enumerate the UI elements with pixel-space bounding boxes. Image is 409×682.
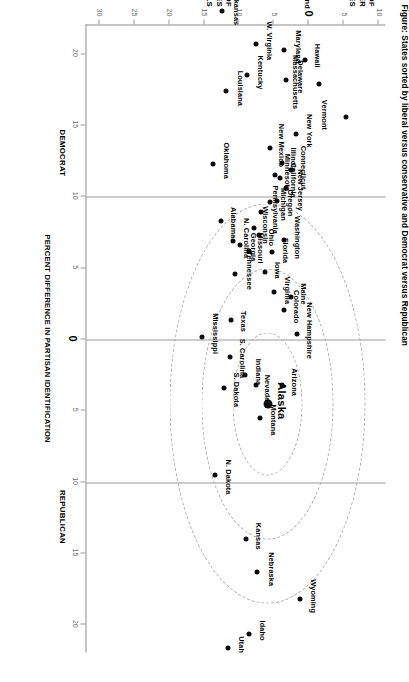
y-tick-mark <box>307 19 308 24</box>
x-tick-mark <box>80 338 85 339</box>
y-tick-mark <box>98 19 99 24</box>
point-label: N. Dakota <box>223 459 232 494</box>
x-tick-mark <box>80 552 85 553</box>
x-axis-title: PERCENT DIFFERENCE IN PARTISAN IDENTIFIC… <box>42 234 52 442</box>
y-axis-title-liberal: PERCENT OFLIBERALS OVERCONSERVATIVES <box>347 0 376 6</box>
x-tick-label: 0 <box>66 335 78 341</box>
point-label: Delaware <box>295 60 304 93</box>
data-point[interactable] <box>228 317 233 322</box>
data-point[interactable] <box>243 536 248 541</box>
x-tick-label: 20 <box>71 619 78 627</box>
x-tick-label: 20 <box>71 49 78 57</box>
y-tick-mark <box>203 19 204 24</box>
y-tick-label: 15 <box>200 8 207 16</box>
point-label: Texas <box>238 311 247 332</box>
data-point[interactable] <box>233 271 238 276</box>
data-point[interactable] <box>218 218 223 223</box>
x-tick-label: 15 <box>71 120 78 128</box>
point-label: Indiana <box>253 358 262 385</box>
x-tick-label: 10 <box>71 477 78 485</box>
data-point[interactable] <box>343 114 348 119</box>
x-tick-label: 5 <box>71 265 78 269</box>
data-point[interactable] <box>246 631 251 636</box>
point-label: Oklahoma <box>221 142 230 179</box>
x-tick-label: 10 <box>71 191 78 199</box>
point-label: Hawaii <box>312 43 321 67</box>
x-tick-label: 15 <box>71 548 78 556</box>
point-label: Montana <box>268 404 277 435</box>
data-point[interactable] <box>297 596 302 601</box>
point-label: Iowa <box>272 261 281 278</box>
point-label: Pennsylvania <box>270 185 279 233</box>
data-point[interactable] <box>254 569 259 574</box>
party-label-democrat: DEMOCRAT <box>57 129 66 176</box>
data-point[interactable] <box>219 8 224 13</box>
x-tick-mark <box>80 409 85 410</box>
y-tick-label: 5 <box>340 12 347 16</box>
x-tick-mark <box>80 623 85 624</box>
data-point[interactable] <box>294 331 299 336</box>
point-label: Wyoming <box>308 579 317 613</box>
point-label: Utah <box>236 636 245 653</box>
data-point[interactable] <box>281 307 286 312</box>
y-tick-label: 20 <box>165 8 172 16</box>
y-tick-label: 5 <box>270 12 277 16</box>
y-tick-label: 25 <box>130 8 137 16</box>
data-point[interactable] <box>271 289 276 294</box>
data-point[interactable] <box>281 47 286 52</box>
point-label: Louisiana <box>235 70 244 105</box>
data-point[interactable] <box>227 354 232 359</box>
point-label: Alabama <box>228 207 237 239</box>
y-tick-mark <box>238 19 239 24</box>
data-point[interactable] <box>230 238 235 243</box>
data-point[interactable] <box>223 88 228 93</box>
point-label: Tennessee <box>244 251 253 290</box>
point-label: Nevada <box>262 374 271 401</box>
data-point[interactable] <box>267 145 272 150</box>
point-label: Colorado <box>291 290 300 323</box>
point-label: New Mexico <box>276 123 285 166</box>
point-label: Mississippi <box>210 313 219 354</box>
chart-page: Figure: States sorted by liberal versus … <box>0 0 409 682</box>
point-label: Virginia <box>282 276 291 304</box>
data-point[interactable] <box>199 334 204 339</box>
y-tick-label: 10 <box>375 8 382 16</box>
point-label: W. Virginia <box>264 21 273 60</box>
point-label: Rhode Island <box>302 0 311 8</box>
y-tick-mark <box>133 19 134 24</box>
x-tick-mark <box>80 267 85 268</box>
point-label: S. Dakota <box>231 372 240 407</box>
data-point[interactable] <box>225 645 230 650</box>
point-label: Florida <box>280 237 289 262</box>
gridline-vertical <box>86 196 385 197</box>
data-point[interactable] <box>212 472 217 477</box>
data-point[interactable] <box>293 131 298 136</box>
data-point[interactable] <box>253 41 258 46</box>
chart-title: Figure: States sorted by liberal versus … <box>399 4 408 680</box>
y-tick-mark <box>168 19 169 24</box>
y-tick-mark <box>377 19 378 24</box>
data-point[interactable] <box>262 269 267 274</box>
y-tick-label: 0 <box>302 10 314 16</box>
point-label: Maryland <box>293 30 302 63</box>
x-tick-mark <box>80 124 85 125</box>
data-point[interactable] <box>283 77 288 82</box>
y-tick-mark <box>272 19 273 24</box>
point-label: Washington <box>292 216 301 259</box>
data-point[interactable] <box>210 161 215 166</box>
data-point[interactable] <box>251 225 256 230</box>
data-point[interactable] <box>221 385 226 390</box>
point-label: Nebraska <box>266 552 275 586</box>
chart-stage: Figure: States sorted by liberal versus … <box>0 0 409 682</box>
data-point[interactable] <box>316 81 321 86</box>
point-label: Arizona <box>289 368 298 396</box>
data-point[interactable] <box>269 249 274 254</box>
x-tick-mark <box>80 53 85 54</box>
plot-area: VermontMassachusettsHawaiiRhode IslandMa… <box>85 24 385 652</box>
data-point[interactable] <box>257 415 262 420</box>
data-point[interactable] <box>272 172 277 177</box>
x-tick-mark <box>80 481 85 482</box>
point-label: Kansas <box>253 522 262 549</box>
x-tick-label: 5 <box>71 407 78 411</box>
point-label: Kentucky <box>255 55 264 89</box>
